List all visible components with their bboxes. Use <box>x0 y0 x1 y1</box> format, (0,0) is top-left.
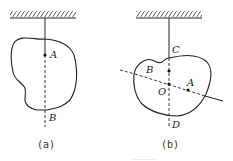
solid-oblique-string <box>205 96 223 101</box>
ceiling-hatch-a <box>10 11 76 17</box>
point-o-dot <box>167 82 170 85</box>
ceiling-hatch-b <box>136 11 202 17</box>
label-a: A <box>49 49 57 60</box>
caption-b: (b) <box>161 139 179 150</box>
label-b: B <box>48 112 56 123</box>
figure-b: C B O A D (b) <box>120 11 223 150</box>
dashed-oblique-outside <box>120 70 135 74</box>
suspension-diagram: A B (a) C B O A D (b) ………… <box>0 0 233 161</box>
figure-a: A B (a) <box>10 11 77 150</box>
label-d: D <box>171 119 180 130</box>
point-a-dot <box>43 53 46 56</box>
irregular-body-a <box>11 38 76 110</box>
label-b-fig-b: B <box>145 64 153 75</box>
label-o: O <box>158 86 166 97</box>
point-b-dot <box>167 69 170 72</box>
bottom-caption: ………… <box>130 154 158 161</box>
point-a-dot-b <box>186 88 189 91</box>
label-c: C <box>172 44 180 55</box>
caption-a: (a) <box>37 139 55 150</box>
label-a-fig-b: A <box>186 77 194 88</box>
